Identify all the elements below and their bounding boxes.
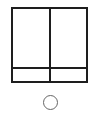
radio-button[interactable] (43, 95, 58, 110)
horizontal-divider (11, 67, 88, 69)
vertical-divider (49, 7, 51, 83)
